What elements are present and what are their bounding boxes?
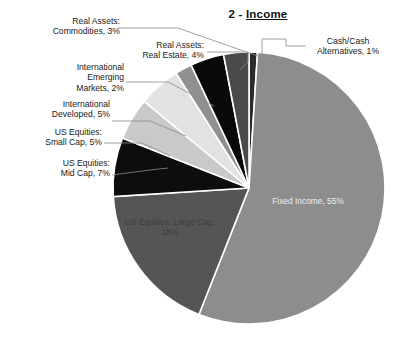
label-fixed-income: Fixed Income, 55%: [256, 196, 360, 206]
label-real-assets-real-estate: Real Assets: Real Estate, 4%: [108, 40, 204, 61]
label-us-equities-small-cap: US Equities: Small Cap, 5%: [10, 127, 102, 148]
pie-slices-group: [113, 52, 385, 324]
label-real-assets-commodities: Real Assets: Commodities, 3%: [18, 16, 120, 37]
label-cash-cash-alternatives: Cash/Cash Alternatives, 1%: [302, 36, 394, 57]
label-international-emerging-markets: International Emerging Markets, 2%: [44, 62, 124, 93]
label-us-equities-mid-cap: US Equities: Mid Cap, 7%: [26, 158, 110, 179]
title-underlined: Income: [246, 8, 287, 20]
label-international-developed: International Developed, 5%: [14, 99, 110, 120]
page-title: 2 - Income: [188, 8, 328, 20]
title-prefix: 2 -: [229, 8, 246, 20]
pie-chart-figure: 2 - Income Real Assets: Commodities, 3% …: [0, 0, 398, 345]
label-us-equities-large-cap: US Equities: Large Cap, 18%: [106, 217, 234, 237]
